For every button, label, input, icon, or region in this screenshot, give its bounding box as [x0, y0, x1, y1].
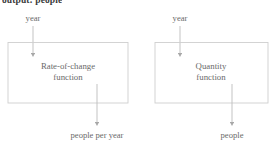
input-label-rate-of-change: year: [26, 13, 41, 23]
output-label-quantity: people: [221, 130, 244, 140]
box-label-quantity-line2: function: [196, 72, 225, 84]
input-label-quantity: year: [173, 13, 188, 23]
diagram-canvas: [0, 0, 274, 148]
box-label-rate-of-change-line1: Rate-of-change: [41, 61, 95, 73]
box-label-rate-of-change-line2: function: [53, 72, 82, 84]
output-label-rate-of-change: people per year: [71, 130, 124, 140]
function-machine-diagram: [0, 0, 274, 148]
box-label-quantity-line1: Quantity: [196, 61, 227, 73]
